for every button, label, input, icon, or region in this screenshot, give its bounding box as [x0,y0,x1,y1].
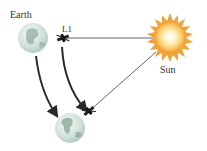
l1-orbit-diagram: Earth L1 Sun [0,0,207,151]
satellite-icon [81,103,97,118]
sun-line-bottom [88,52,156,112]
earth-globe-icon [18,23,48,53]
earth-orbit-arrow [36,56,55,113]
sun-icon [147,13,193,62]
sun-label: Sun [160,65,176,75]
l1-orbit-arrow [62,47,84,108]
earth-globe-icon [55,113,85,143]
l1-label: L1 [62,24,72,34]
earth-label: Earth [10,10,32,20]
